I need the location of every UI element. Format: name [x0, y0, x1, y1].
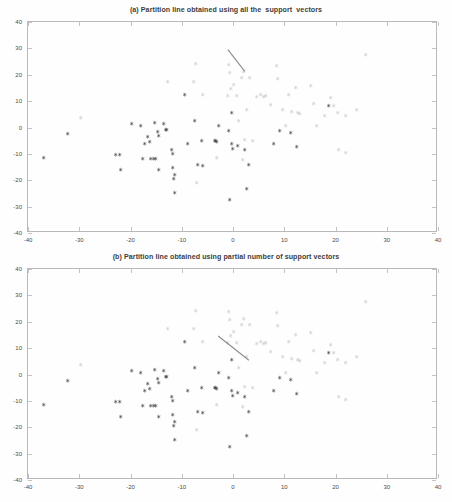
y-axis-tick-label: 20 [15, 72, 22, 78]
partition-line [28, 22, 436, 231]
y-axis-tick-label: -20 [13, 177, 22, 183]
x-axis-tick-label: -10 [177, 484, 186, 490]
panel-a-plot-frame: -40-30-20-10010203040-40-30-20-100102030… [27, 21, 437, 232]
y-axis-tick [28, 480, 32, 481]
y-axis-tick-label: 10 [15, 345, 22, 351]
x-axis-tick-label: -20 [126, 237, 135, 243]
x-axis-tick-label: 30 [383, 484, 390, 490]
x-axis-tick-label: 0 [231, 484, 234, 490]
y-axis-tick-label: 20 [15, 319, 22, 325]
x-axis-tick-label: 10 [281, 484, 288, 490]
x-axis-tick [438, 269, 439, 273]
y-axis-tick-label: -40 [13, 230, 22, 236]
panel-b-plot-frame: -40-30-20-10010203040-40-30-20-100102030… [27, 268, 437, 479]
x-axis-tick-label: 20 [332, 237, 339, 243]
y-axis-tick [28, 233, 32, 234]
panel-a-title: (a) Partition line obtained using all th… [0, 5, 452, 15]
x-axis-tick [438, 474, 439, 478]
x-axis-tick [438, 227, 439, 231]
y-axis-tick [432, 480, 436, 481]
x-axis-tick-label: -40 [24, 484, 33, 490]
panel-b: (b) Partition line obtained using partia… [0, 251, 452, 502]
y-axis-tick-label: 0 [19, 372, 22, 378]
panel-b-plot-area: -40-30-20-10010203040-40-30-20-100102030… [28, 269, 436, 478]
x-axis-tick-label: -20 [126, 484, 135, 490]
panel-b-title: (b) Partition line obtained using partia… [0, 252, 452, 262]
x-axis-tick-label: 0 [231, 237, 234, 243]
y-axis-tick-label: -30 [13, 451, 22, 457]
x-axis-tick-label: 10 [281, 237, 288, 243]
x-axis-tick [438, 22, 439, 26]
y-axis-tick-label: 10 [15, 98, 22, 104]
y-axis-tick-label: -20 [13, 424, 22, 430]
x-axis-tick-label: 30 [383, 237, 390, 243]
y-axis-tick-label: 40 [15, 19, 22, 25]
x-axis-tick-label: -40 [24, 237, 33, 243]
y-axis-tick-label: 30 [15, 45, 22, 51]
y-axis-tick-label: 40 [15, 266, 22, 272]
figure-root: (a) Partition line obtained using all th… [0, 0, 452, 502]
x-axis-tick-label: -30 [75, 237, 84, 243]
panel-a-plot-area: -40-30-20-10010203040-40-30-20-100102030… [28, 22, 436, 231]
y-axis-tick-label: -40 [13, 477, 22, 483]
x-axis-tick-label: 20 [332, 484, 339, 490]
partition-line [28, 269, 436, 478]
x-axis-tick-label: -30 [75, 484, 84, 490]
x-axis-tick-label: 40 [435, 237, 442, 243]
y-axis-tick-label: -30 [13, 204, 22, 210]
y-axis-tick [432, 233, 436, 234]
y-axis-tick-label: 0 [19, 125, 22, 131]
y-axis-tick-label: 30 [15, 292, 22, 298]
x-axis-tick-label: 40 [435, 484, 442, 490]
y-axis-tick-label: -10 [13, 151, 22, 157]
panel-a: (a) Partition line obtained using all th… [0, 0, 452, 251]
x-axis-tick-label: -10 [177, 237, 186, 243]
y-axis-tick-label: -10 [13, 398, 22, 404]
